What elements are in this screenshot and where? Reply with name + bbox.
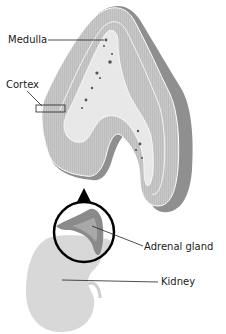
cortex-label: Cortex (6, 80, 39, 90)
kidney-label: Kidney (161, 277, 195, 287)
adrenal-cross-section (42, 6, 193, 212)
adrenal-gland-label: Adrenal gland (144, 242, 213, 252)
cortex-leader (27, 91, 42, 106)
medulla-label: Medulla (8, 35, 47, 45)
